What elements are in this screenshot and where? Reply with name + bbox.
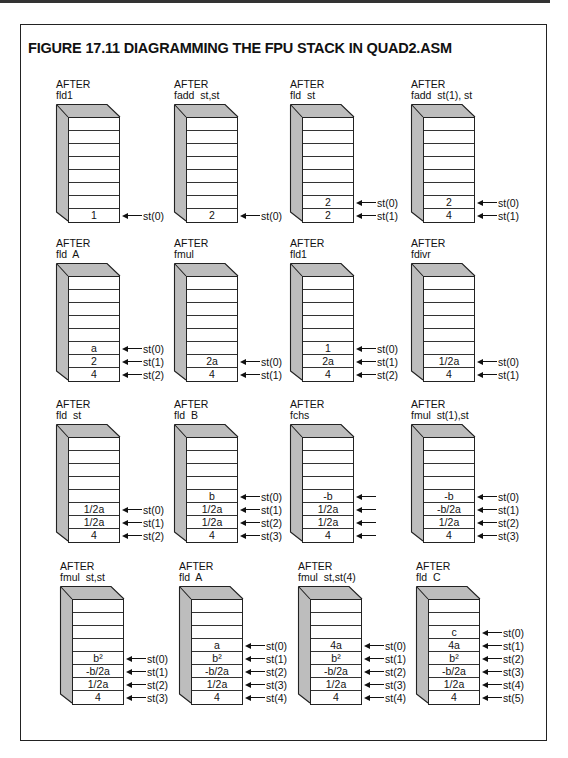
register-pointer [356, 503, 377, 516]
fpu-stack-3d: 1/2a1/2a4st(0)st(1)st(2) [56, 424, 121, 542]
stack-register-slot [69, 438, 119, 451]
panel-instruction: fld st [56, 410, 81, 421]
stack-register-slot: 4 [424, 368, 474, 381]
panel-instruction: fadd st(1), st [411, 90, 472, 101]
fpu-stack-3d: ab²-b/2a1/2a4st(0)st(1)st(2)st(3)st(4) [179, 586, 244, 704]
stack-register-slot [303, 329, 353, 342]
stack-register-slot [69, 329, 119, 342]
stack-register-slot [187, 290, 237, 303]
stack-panel: AFTERfchs-b1/2a1/2a4 [290, 399, 408, 549]
stack-register-slot [311, 600, 361, 613]
stack-register-slot: b [187, 490, 237, 503]
stack-register-slot [303, 144, 353, 157]
stack-register-slot: 2a [303, 355, 353, 368]
stack-register-slot [303, 157, 353, 170]
stack-register-slot: 2 [424, 196, 474, 209]
register-pointer: st(0) [122, 503, 164, 516]
register-label: st(2) [498, 517, 519, 529]
stack-register-slot [187, 451, 237, 464]
register-pointer: st(5) [482, 691, 524, 704]
register-label: st(0) [498, 197, 519, 209]
register-pointer: st(0) [126, 652, 168, 665]
stack-register-slot [429, 613, 479, 626]
register-label: st(2) [377, 369, 398, 381]
stack-register-slot [69, 183, 119, 196]
register-label: st(0) [143, 343, 164, 355]
register-pointer: st(2) [122, 368, 164, 381]
register-label: st(3) [261, 530, 282, 542]
register-pointer [356, 516, 377, 529]
register-pointer: st(0) [122, 209, 164, 222]
stack-register-slot [303, 290, 353, 303]
stack-register-slot: 2a [187, 355, 237, 368]
stack-register-slot: 1/2a [69, 503, 119, 516]
arrow-left-icon [356, 344, 376, 353]
stack-register-slot [73, 639, 123, 652]
fpu-stack-3d: 4ab²-b/2a1/2a4st(0)st(1)st(2)st(3)st(4) [298, 586, 363, 704]
register-label: st(2) [147, 679, 168, 691]
stack-register-slot: 4 [424, 209, 474, 222]
register-label: st(1) [261, 369, 282, 381]
register-pointer: st(2) [482, 652, 524, 665]
register-pointer: st(2) [477, 516, 519, 529]
stack-register-slot [73, 626, 123, 639]
stack-register-slot: 4 [69, 529, 119, 542]
arrow-left-icon [245, 667, 265, 676]
fpu-stack-3d: b²-b/2a1/2a4st(0)st(1)st(2)st(3) [60, 586, 125, 704]
arrow-left-icon [482, 628, 502, 637]
register-pointer: st(0) [240, 209, 282, 222]
register-pointer: st(1) [477, 368, 519, 381]
fpu-stack-3d: 22st(0)st(1) [290, 104, 355, 222]
page-top-rule [0, 0, 550, 3]
register-pointer: st(3) [126, 691, 168, 704]
register-label: st(1) [143, 517, 164, 529]
stack-register-slot [187, 438, 237, 451]
stack-panel: AFTERfmul st,st(4)4ab²-b/2a1/2a4st(0)st(… [298, 561, 416, 711]
register-pointer: st(2) [240, 516, 282, 529]
arrow-left-icon [477, 370, 497, 379]
arrow-left-icon [482, 693, 502, 702]
stack-register-slot [303, 438, 353, 451]
stack-panel: AFTERfadd st(1), st24st(0)st(1) [411, 79, 529, 229]
arrow-left-icon [482, 641, 502, 650]
stack-register-slot [187, 144, 237, 157]
arrow-left-icon [122, 505, 142, 514]
arrow-left-icon [240, 492, 260, 501]
stack-register-slot [69, 451, 119, 464]
register-label: st(0) [385, 640, 406, 652]
arrow-left-icon [356, 370, 376, 379]
register-label: st(1) [503, 640, 524, 652]
register-label: st(2) [143, 530, 164, 542]
stack-front-face: 2a4 [186, 276, 238, 382]
stack-panel: AFTERfld st22st(0)st(1) [290, 79, 408, 229]
fpu-stack-3d: -b-b/2a1/2a4st(0)st(1)st(2)st(3) [411, 424, 476, 542]
register-label: st(1) [143, 356, 164, 368]
arrow-left-icon [356, 492, 376, 501]
register-pointer: st(0) [364, 639, 406, 652]
stack-register-slot [69, 290, 119, 303]
register-label: st(1) [377, 356, 398, 368]
panel-instruction: fld B [174, 410, 198, 421]
stack-register-slot [303, 170, 353, 183]
register-pointer: st(1) [122, 516, 164, 529]
stack-register-slot: a [192, 639, 242, 652]
register-label: st(0) [503, 627, 524, 639]
register-pointer: st(2) [245, 665, 287, 678]
register-label: st(4) [266, 692, 287, 704]
stack-register-slot [187, 157, 237, 170]
arrow-left-icon [122, 370, 142, 379]
register-label: st(0) [143, 504, 164, 516]
arrow-left-icon [356, 357, 376, 366]
stack-front-face: -b1/2a1/2a4 [302, 437, 354, 543]
register-pointer: st(1) [126, 665, 168, 678]
arrow-left-icon [240, 505, 260, 514]
register-label: st(0) [261, 491, 282, 503]
arrow-left-icon [126, 680, 146, 689]
stack-register-slot: 1 [69, 209, 119, 222]
register-label: st(0) [377, 197, 398, 209]
arrow-left-icon [356, 518, 376, 527]
panel-instruction: fld A [179, 572, 202, 583]
register-label: st(0) [498, 356, 519, 368]
stack-register-slot [187, 118, 237, 131]
stack-register-slot [303, 316, 353, 329]
